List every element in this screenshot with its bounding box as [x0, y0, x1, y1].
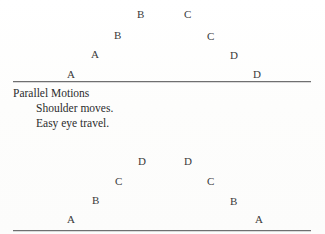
caption-title: Parallel Motions — [13, 86, 325, 101]
arc-mark: A — [91, 49, 99, 60]
arc-mark: A — [255, 214, 263, 225]
arc-mark: D — [253, 69, 261, 80]
arc-mark: C — [207, 176, 214, 187]
arc-mark: B — [137, 9, 144, 20]
upper-baseline-rule — [13, 81, 311, 82]
arc-mark: A — [67, 214, 75, 225]
upper-arc-diagram: A A B B C C D D — [0, 0, 325, 84]
lower-baseline-rule — [13, 230, 311, 231]
arc-mark: B — [92, 195, 99, 206]
arc-mark: B — [114, 30, 121, 41]
arc-mark: A — [67, 69, 75, 80]
arc-mark: C — [207, 31, 214, 42]
arc-mark: C — [115, 176, 122, 187]
scanned-page: A A B B C C D D Parallel Motions Shoulde… — [0, 0, 325, 234]
arc-mark: D — [230, 50, 238, 61]
arc-mark: C — [184, 9, 191, 20]
caption-line-2: Easy eye travel. — [36, 116, 325, 131]
caption-block: Parallel Motions Shoulder moves. Easy ey… — [0, 86, 325, 131]
arc-mark: D — [138, 156, 146, 167]
arc-mark: B — [230, 196, 237, 207]
arc-mark: D — [184, 156, 192, 167]
lower-arc-diagram: A B C D D C B A — [0, 150, 325, 234]
caption-line-1: Shoulder moves. — [36, 101, 325, 116]
